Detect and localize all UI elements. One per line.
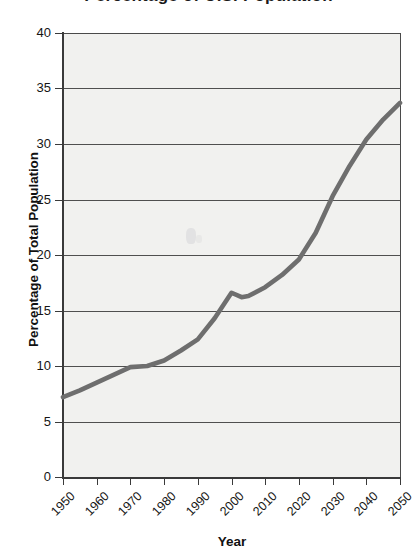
gridline-10 — [63, 366, 400, 367]
x-tick-mark-2010 — [265, 477, 266, 485]
gridline-30 — [63, 144, 400, 145]
scan-artifact — [196, 235, 202, 243]
chart-figure: Percentage of U.S. Population 40 35 30 2… — [0, 0, 417, 558]
x-tick-mark-2020 — [299, 477, 300, 485]
x-tick-mark-2040 — [366, 477, 367, 485]
x-tick-mark-1970 — [130, 477, 131, 485]
x-tick-mark-1980 — [164, 477, 165, 485]
y-tick-mark-0 — [55, 477, 63, 478]
gridline-20 — [63, 255, 400, 256]
chart-title-cropped: Percentage of U.S. Population — [0, 0, 417, 6]
gridline-25 — [63, 200, 400, 201]
y-tick-label-40: 40 — [8, 26, 51, 39]
y-tick-mark-40 — [55, 33, 63, 34]
gridline-5 — [63, 422, 400, 423]
y-tick-label-0: 0 — [8, 470, 51, 483]
gridline-15 — [63, 311, 400, 312]
y-tick-label-5: 5 — [8, 415, 51, 428]
y-tick-mark-10 — [55, 366, 63, 367]
x-tick-mark-2030 — [333, 477, 334, 485]
scan-artifact — [186, 228, 196, 244]
y-tick-mark-15 — [55, 311, 63, 312]
x-tick-mark-1950 — [63, 477, 64, 485]
y-tick-mark-5 — [55, 422, 63, 423]
y-tick-label-35: 35 — [8, 81, 51, 94]
x-tick-mark-1990 — [198, 477, 199, 485]
y-tick-mark-25 — [55, 200, 63, 201]
y-axis-title: Percentage of Total Population — [26, 125, 41, 375]
y-tick-mark-30 — [55, 144, 63, 145]
y-tick-mark-35 — [55, 88, 63, 89]
y-tick-mark-20 — [55, 255, 63, 256]
x-axis-title: Year — [63, 534, 401, 549]
x-tick-mark-2050 — [400, 477, 401, 485]
gridline-35 — [63, 88, 400, 89]
x-tick-mark-1960 — [97, 477, 98, 485]
x-tick-mark-2000 — [232, 477, 233, 485]
